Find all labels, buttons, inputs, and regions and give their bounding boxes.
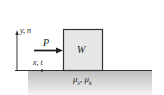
x-axis-marker [41, 69, 44, 72]
vertical-axis-label: y, n [20, 26, 31, 35]
free-body-diagram: y, n x, t P W μs, μk [0, 0, 164, 95]
horizontal-axis-label: x, t [33, 58, 43, 67]
friction-coefficients-label: μs, μk [73, 74, 92, 86]
weight-label: W [77, 44, 85, 55]
force-label: P [43, 37, 49, 48]
force-arrow-head-icon [56, 48, 63, 54]
mu-kinetic: , μ [80, 74, 89, 84]
y-axis-arrowhead-icon [15, 30, 18, 35]
mu-kinetic-subscript: k [89, 80, 92, 86]
